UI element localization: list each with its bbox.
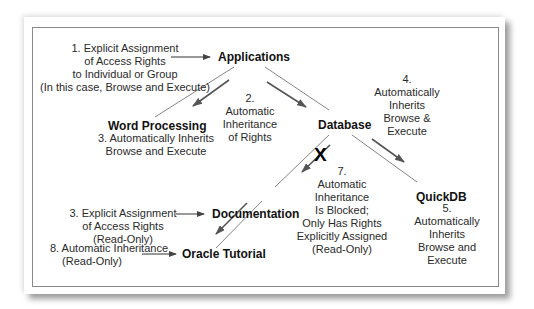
annotation-4: 4. Automatically Inherits Browse & Execu… <box>362 73 452 138</box>
annotation-1: 1. Explicit Assignment of Access Rights … <box>37 42 213 94</box>
node-word-processing: Word Processing <box>108 119 206 133</box>
blocked-x-icon: X <box>314 144 327 166</box>
annotation-3-word-processing: 3. Automatically Inherits Browse and Exe… <box>86 132 226 158</box>
annotation-7: 7. Automatic Inheritance Is Blocked; Onl… <box>287 165 397 256</box>
node-oracle-tutorial: Oracle Tutorial <box>182 247 266 261</box>
arrow-database-quickdb <box>372 139 404 162</box>
node-applications: Applications <box>218 50 290 64</box>
annotation-3-documentation: 3. Explicit Assignment of Access Rights … <box>68 207 178 246</box>
annotation-5: 5. Automatically Inherits Browse and Exe… <box>402 202 492 267</box>
annotation-8: 8. Automatic Inheritance (Read-Only) <box>50 242 164 268</box>
